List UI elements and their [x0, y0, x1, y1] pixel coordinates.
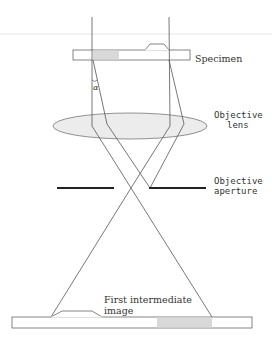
ray-left-unscattered	[92, 17, 212, 317]
objective-lens	[53, 113, 207, 139]
objective-aperture-label-2: aperture	[214, 186, 257, 196]
rays	[51, 17, 212, 317]
specimen	[73, 44, 190, 60]
image-label-1: First intermediate	[104, 294, 192, 305]
image-label-2: image	[104, 305, 134, 316]
objective-lens-label-1: Objective	[214, 110, 263, 120]
ray-right-unscattered	[51, 17, 170, 317]
optics-diagram: α Specimen Objective lens Objective aper…	[0, 0, 272, 341]
objective-lens-label-2: lens	[227, 120, 249, 130]
objective-aperture-label-1: Objective	[214, 176, 263, 186]
angle-arc	[92, 80, 97, 82]
specimen-label: Specimen	[195, 53, 242, 64]
angle-label: α	[93, 83, 99, 92]
